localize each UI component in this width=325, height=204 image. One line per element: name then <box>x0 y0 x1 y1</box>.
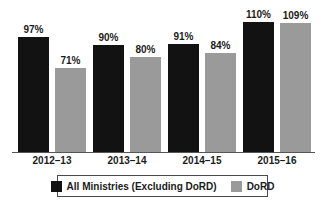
legend-entry-all-ministries[interactable]: All Ministries (Excluding DoRD) <box>51 181 217 192</box>
gray-square-swatch-icon <box>231 181 242 192</box>
bar-value-label: 91% <box>173 32 193 42</box>
bar-all-ministries[interactable] <box>93 45 124 152</box>
bar-value-label: 71% <box>60 56 80 66</box>
bar-value-label: 110% <box>246 10 271 20</box>
bar-dord[interactable] <box>130 57 161 152</box>
bar-all-ministries[interactable] <box>243 22 274 152</box>
bar-value-label: 90% <box>98 33 118 43</box>
bar-dord[interactable] <box>280 23 311 152</box>
axis-tick-label-2015-16: 2015–16 <box>258 155 297 167</box>
bar-all-ministries[interactable] <box>168 44 199 152</box>
bar-group: 91% 84% <box>168 0 236 152</box>
axis-tick-label-2013-14: 2013–14 <box>108 155 147 167</box>
black-square-swatch-icon <box>51 181 62 192</box>
legend-label: All Ministries (Excluding DoRD) <box>67 181 217 192</box>
x-axis-line <box>12 152 315 153</box>
grouped-bar-chart: 97% 71% 90% 80% 91% <box>0 0 325 204</box>
bar-all-ministries[interactable] <box>18 37 49 152</box>
axis-tick-label-2012-13: 2012–13 <box>33 155 72 167</box>
axis-tick-label-2014-15: 2014–15 <box>183 155 222 167</box>
bar-value-label: 80% <box>135 45 155 55</box>
plot-area: 97% 71% 90% 80% 91% <box>0 0 325 153</box>
bar-value-label: 97% <box>23 25 43 35</box>
legend-entry-dord[interactable]: DoRD <box>231 181 275 192</box>
legend-label: DoRD <box>247 181 275 192</box>
bar-group: 110% 109% <box>243 0 311 152</box>
chart-legend: All Ministries (Excluding DoRD) DoRD <box>57 175 268 197</box>
bar-dord[interactable] <box>205 53 236 152</box>
bar-value-label: 84% <box>210 41 230 51</box>
bar-group: 90% 80% <box>93 0 161 152</box>
bar-group: 97% 71% <box>18 0 86 152</box>
bar-dord[interactable] <box>55 68 86 152</box>
bar-value-label: 109% <box>283 11 309 21</box>
